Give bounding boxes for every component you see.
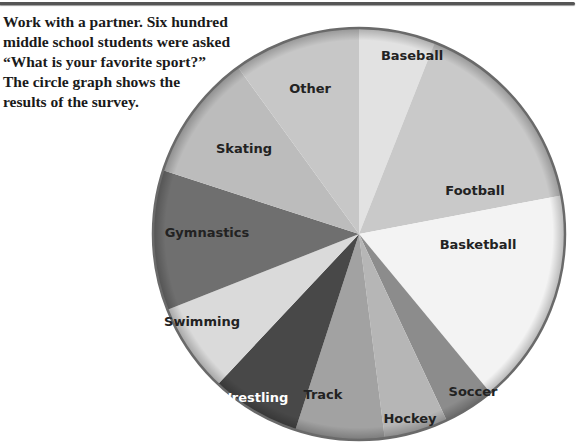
pie-slice-wrestling xyxy=(218,234,359,430)
slice-label-soccer: Soccer xyxy=(449,384,499,399)
pie-slice-soccer xyxy=(359,234,490,420)
pie-slice-basketball xyxy=(359,195,565,392)
top-rule xyxy=(0,2,575,5)
pie-slice-other xyxy=(238,28,359,234)
pie-slice-swimming xyxy=(167,234,359,384)
slice-label-baseball: Baseball xyxy=(381,48,443,63)
slice-label-basketball: Basketball xyxy=(440,237,517,252)
slice-label-track: Track xyxy=(304,387,343,402)
prompt-line: The circle graph shows the xyxy=(3,72,248,92)
pie-slice-football xyxy=(359,42,561,234)
slice-label-other: Other xyxy=(289,81,331,96)
pie-slice-gymnastics xyxy=(153,170,359,309)
slice-label-football: Football xyxy=(445,183,504,198)
prompt-line: Work with a partner. Six hundred xyxy=(3,12,248,32)
slice-label-hockey: Hockey xyxy=(383,411,437,426)
slice-label-skating: Skating xyxy=(216,141,272,156)
pie-slice-baseball xyxy=(359,28,435,234)
prompt-line: middle school students were asked xyxy=(3,32,248,52)
survey-prompt: Work with a partner. Six hundred middle … xyxy=(3,12,248,112)
slice-label-swimming: Swimming xyxy=(164,314,240,329)
slice-label-gymnastics: Gymnastics xyxy=(165,225,250,240)
pie-slice-hockey xyxy=(359,234,447,438)
prompt-line: “What is your favorite sport?” xyxy=(3,52,248,72)
prompt-line: results of the survey. xyxy=(3,92,248,112)
slice-label-wrestling: Wrestling xyxy=(218,390,289,405)
pie-slice-track xyxy=(295,234,384,440)
